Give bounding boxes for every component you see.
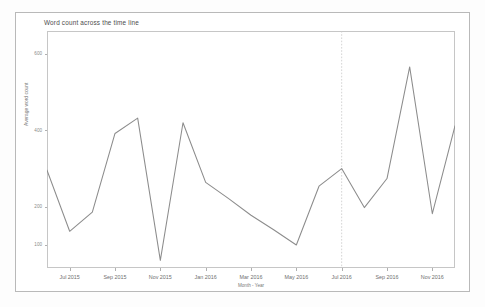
- x-axis-tick-mark: [115, 268, 116, 271]
- x-axis-tick-mark: [387, 268, 388, 271]
- x-axis-tick-label: Sep 2015: [103, 274, 126, 280]
- x-axis-title: Month - Year: [238, 283, 264, 288]
- y-axis-tick-label: 200: [26, 204, 42, 209]
- chart-title: Word count across the time line: [44, 19, 139, 26]
- plot-area: [47, 31, 455, 268]
- chart-page: Word count across the time line Average …: [0, 0, 485, 307]
- x-axis-tick-mark: [70, 268, 71, 271]
- x-axis-tick-mark: [342, 268, 343, 271]
- x-axis-tick-label: Nov 2015: [149, 274, 172, 280]
- x-axis-tick-mark: [432, 268, 433, 271]
- x-axis-tick-label: Nov 2016: [421, 274, 444, 280]
- x-axis-tick-label: Jul 2016: [331, 274, 351, 280]
- word-count-line: [47, 67, 455, 260]
- x-axis-tick-label: Sep 2016: [375, 274, 398, 280]
- x-axis-tick-mark: [251, 268, 252, 271]
- y-axis-tick-label: 400: [26, 128, 42, 133]
- y-axis-tick-label: 600: [26, 51, 42, 56]
- x-axis-tick-mark: [160, 268, 161, 271]
- x-axis-tick-label: Jul 2015: [59, 274, 79, 280]
- x-axis-tick-label: May 2016: [284, 274, 308, 280]
- y-axis-title: Average word count: [24, 83, 29, 126]
- x-axis-tick-label: Mar 2016: [240, 274, 263, 280]
- x-axis-tick-mark: [206, 268, 207, 271]
- x-axis-tick-label: Jan 2016: [195, 274, 217, 280]
- x-axis-tick-mark: [296, 268, 297, 271]
- y-axis-tick-label: 100: [26, 242, 42, 247]
